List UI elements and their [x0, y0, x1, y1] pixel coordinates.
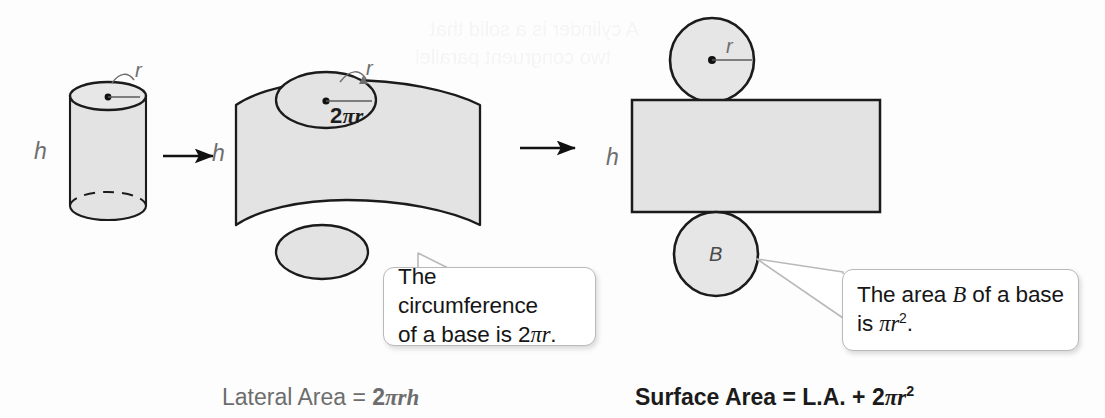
callout-circumference-period: .	[550, 322, 556, 347]
circumference-label-pi: π	[343, 103, 355, 128]
diagram-artwork	[0, 0, 1105, 418]
callout-area-tail	[757, 259, 843, 318]
circumference-label: 2πr	[330, 105, 364, 127]
callout-area-exponent: 2	[899, 310, 907, 326]
net-height-label: h	[606, 146, 619, 169]
callout-circumference-pi: π	[530, 322, 541, 347]
net-radius-label: r	[726, 36, 733, 56]
caption-surface-area: Surface Area = L.A. + 2πr2	[635, 386, 914, 409]
cylinder-height-label: h	[34, 140, 47, 163]
circumference-label-num: 2	[330, 103, 343, 128]
callout-circumference-line1: The circumference	[398, 264, 538, 318]
callout-area-period: .	[907, 311, 913, 336]
callout-area-pi: π	[879, 311, 890, 336]
caption-surface-pi: π	[885, 385, 898, 410]
callout-area-text: The area B of a base is πr2.	[843, 281, 1078, 339]
callout-area-line1-post: of a base	[966, 282, 1064, 307]
callout-area-var-r: r	[890, 311, 899, 336]
caption-lateral-text: Lateral Area =	[222, 384, 372, 410]
callout-area-line1-pre: The area	[857, 282, 952, 307]
net-base-area-label: B	[709, 244, 722, 264]
callout-circumference-line2-pre: of a base is	[398, 322, 518, 347]
caption-surface-exponent: 2	[906, 383, 914, 399]
caption-lateral-r: r	[398, 385, 407, 410]
circumference-label-r: r	[355, 103, 364, 128]
callout-area-var-B: B	[952, 282, 966, 307]
cylinder-radius-label: r	[135, 60, 142, 80]
unrolled-height-label: h	[212, 142, 225, 165]
cylinder-shape	[70, 74, 146, 220]
callout-circumference-var: r	[542, 322, 551, 347]
net-shape	[632, 18, 880, 296]
unrolled-radius-label: r	[366, 58, 373, 78]
caption-surface-num: 2	[872, 384, 885, 410]
callout-area-line2-pre: is	[857, 311, 879, 336]
caption-lateral-h: h	[407, 385, 420, 410]
caption-lateral-pi: π	[385, 385, 398, 410]
caption-lateral-num: 2	[372, 384, 385, 410]
callout-circumference-text: The circumference of a base is 2πr.	[384, 263, 595, 349]
caption-surface-text: Surface Area = L.A. +	[635, 384, 872, 410]
caption-lateral-area: Lateral Area = 2πrh	[222, 386, 419, 409]
callout-circumference-num: 2	[518, 322, 530, 347]
figure-canvas: A cylinder is a solid that two congruent…	[0, 0, 1105, 418]
callout-circumference: The circumference of a base is 2πr.	[383, 267, 596, 346]
callout-area: The area B of a base is πr2.	[842, 269, 1079, 351]
caption-surface-r: r	[897, 385, 906, 410]
